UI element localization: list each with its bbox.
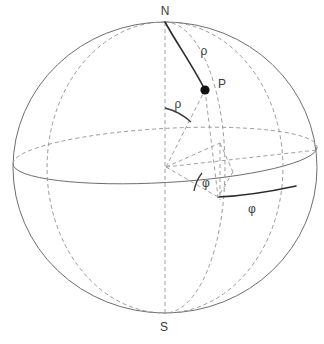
arc-n-to-p xyxy=(165,22,205,90)
label-rho-arc: ρ xyxy=(201,44,208,58)
back-meridian-left-arc xyxy=(47,22,165,313)
meridian-through-p-front xyxy=(165,22,225,313)
parallelogram-edge-a xyxy=(166,143,220,167)
back-meridian-right-arc xyxy=(165,22,283,313)
label-point-p: P xyxy=(218,77,226,91)
sphere-diagram: N S P ρ ρ φ φ xyxy=(0,0,324,344)
label-south-pole: S xyxy=(160,320,168,334)
label-north-pole: N xyxy=(161,4,170,18)
label-phi-arc: φ xyxy=(248,202,256,216)
parallelogram-edge-b xyxy=(220,143,233,172)
sphere-diagram-canvas: N S P ρ ρ φ φ xyxy=(0,0,324,344)
point-p-dot xyxy=(200,85,209,94)
label-rho-angle: ρ xyxy=(175,97,182,111)
equatorial-reference-ray xyxy=(166,150,317,167)
radius-o-to-p xyxy=(166,90,205,167)
label-phi-angle: φ xyxy=(202,176,210,190)
arc-phi-equator xyxy=(218,186,296,197)
angle-arc-phi xyxy=(194,173,202,191)
